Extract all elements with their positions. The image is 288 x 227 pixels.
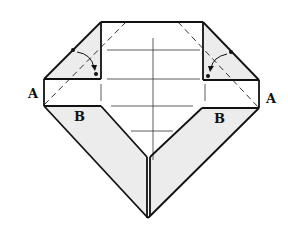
left-target-dot	[94, 72, 98, 76]
origami-diagram: A A B B	[0, 0, 288, 227]
label-a-left: A	[27, 86, 39, 101]
right-source-dot	[229, 50, 233, 54]
label-b-right: B	[214, 111, 225, 126]
label-b-left: B	[74, 109, 85, 124]
left-source-dot	[71, 48, 75, 52]
label-a-right: A	[265, 91, 277, 106]
right-target-dot	[206, 74, 210, 78]
